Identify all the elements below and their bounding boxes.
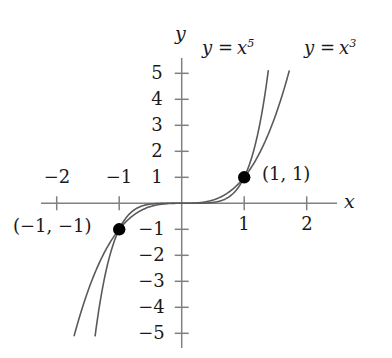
x-tick-label-2: 2 xyxy=(295,215,319,233)
point-label-1-1: (1, 1) xyxy=(262,165,310,183)
curve-label-quintic-lhs: y = xyxy=(202,37,233,58)
graph-figure: y x y =x5 y =x3 5 4 3 2 1 −1 −2 −3 −4 −5… xyxy=(0,0,392,358)
x-tick-label--1: −1 xyxy=(101,168,137,186)
curve-label-quintic: y =x5 xyxy=(202,38,254,57)
curve-label-cubic-lhs: y = xyxy=(304,37,335,58)
y-tick-label--3: −3 xyxy=(134,272,169,290)
y-tick-label-2: 2 xyxy=(145,142,169,160)
y-tick-label--2: −2 xyxy=(134,246,169,264)
y-tick-label-5: 5 xyxy=(145,64,169,82)
x-axis-label: x xyxy=(344,192,355,211)
y-tick-label--1: −1 xyxy=(134,220,169,238)
y-tick-label-3: 3 xyxy=(145,116,169,134)
point-marker-neg1-neg1 xyxy=(113,223,125,235)
x-tick-label-1: 1 xyxy=(232,215,256,233)
point-label-neg1-neg1: (−1, −1) xyxy=(13,217,92,235)
y-tick-label--4: −4 xyxy=(134,298,169,316)
curve-label-quintic-exponent: 5 xyxy=(247,37,254,50)
y-tick-label--5: −5 xyxy=(134,324,169,342)
y-axis-label: y xyxy=(175,24,186,43)
curve-label-cubic-exponent: 3 xyxy=(349,37,356,50)
point-marker-1-1 xyxy=(238,171,250,183)
curve-label-quintic-base: x xyxy=(237,37,247,58)
curve-label-cubic-base: x xyxy=(339,37,349,58)
x-tick-label--2: −2 xyxy=(39,168,75,186)
curve-label-cubic: y =x3 xyxy=(304,38,356,57)
y-tick-label-1: 1 xyxy=(145,168,169,186)
y-tick-label-4: 4 xyxy=(145,90,169,108)
